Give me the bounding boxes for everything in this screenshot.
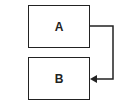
arrowhead-icon [90, 75, 97, 83]
edge-a-to-b [0, 0, 122, 103]
connector-line [90, 26, 113, 79]
